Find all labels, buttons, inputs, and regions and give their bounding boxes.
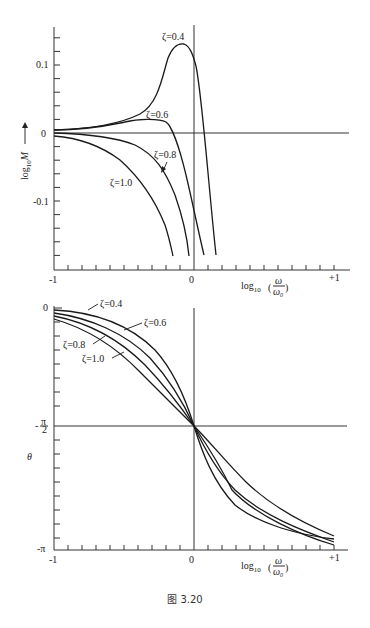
svg-text:ω: ω [275,275,282,286]
svg-text:log10M: log10M [19,151,33,180]
label-zeta-0.6: ζ=0.6 [144,317,166,329]
svg-text:): ) [285,562,288,574]
x-axis-label: log10 ( ω ω0 ) [241,275,288,298]
y-tick-neg-half-pi: - π 2 [35,416,48,435]
x-tick-0: 0 [189,274,194,285]
leader-zeta-0.4 [88,304,98,310]
label-zeta-0.4: ζ=0.4 [100,298,122,310]
label-zeta-0.8: ζ=0.8 [154,149,176,161]
x-tick-0: 0 [189,554,194,565]
label-zeta-0.6: ζ=0.6 [146,109,168,121]
y-tick-neg-0.1: -0.1 [33,196,49,207]
label-zeta-0.4: ζ=0.4 [162,31,184,43]
y-axis-label: log10M [19,122,33,180]
arrow-up-icon [22,122,28,128]
svg-text:ω0: ω0 [273,286,283,298]
leader-zeta-0.8 [93,336,105,344]
y-tick-0.1: 0.1 [36,59,49,70]
svg-text:ω0: ω0 [273,566,283,578]
svg-text:ω: ω [275,555,282,566]
y-ticks [54,38,60,256]
x-tick-neg1: -1 [49,274,57,285]
phase-chart: ζ=0.4 ζ=0.6 ζ=0.8 ζ=1.0 0 - π 2 -π -1 0 … [27,298,348,578]
svg-text:-: - [35,420,38,431]
svg-text:): ) [285,282,288,294]
svg-text:2: 2 [42,424,47,435]
svg-text:(: ( [268,282,272,294]
leader-zeta-0.6 [124,323,142,330]
label-zeta-1.0: ζ=1.0 [82,353,104,365]
magnitude-chart: ζ=0.4 ζ=0.6 ζ=0.8 ζ=1.0 0.1 0 -0.1 -1 0 … [19,25,350,298]
y-tick-0: 0 [43,302,48,313]
svg-text:log10: log10 [241,560,261,574]
label-zeta-0.8: ζ=0.8 [63,339,85,351]
svg-text:log10: log10 [241,280,261,294]
figure-caption: 图 3.20 [0,591,370,606]
y-tick-0: 0 [41,128,46,139]
label-zeta-1.0: ζ=1.0 [110,177,132,189]
x-ticks [68,265,334,270]
x-tick-neg1: -1 [49,554,57,565]
x-axis-label: log10 ( ω ω0 ) [241,555,288,578]
y-axis-label: θ [27,451,32,462]
y-tick-neg-pi: -π [37,543,45,554]
svg-text:(: ( [268,562,272,574]
y-ticks [54,322,60,538]
x-ticks [68,545,334,550]
figure: ζ=0.4 ζ=0.6 ζ=0.8 ζ=1.0 0.1 0 -0.1 -1 0 … [0,0,370,628]
x-tick-pos1: +1 [329,552,340,563]
x-tick-pos1: +1 [329,272,340,283]
curve-zeta-0.4 [54,44,216,255]
